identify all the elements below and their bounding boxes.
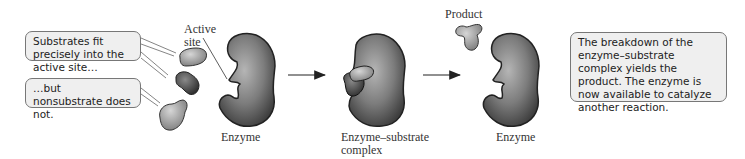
label-active-site-line2: site xyxy=(184,36,216,49)
enzyme-shape-2 xyxy=(483,33,539,126)
callout-nonsubstrate: …but nonsubstrate does not. xyxy=(25,78,141,108)
substrate-molecule xyxy=(180,48,207,66)
label-enzyme: Enzyme xyxy=(221,131,260,144)
enzyme-shape xyxy=(219,33,275,126)
callout-pointers xyxy=(141,38,176,106)
substrate-molecule-2 xyxy=(176,72,199,95)
label-complex: Enzyme–substrate complex xyxy=(341,131,429,157)
label-active-site: Active site xyxy=(184,23,216,49)
label-complex-line2: complex xyxy=(341,144,429,157)
callout-substrates-fit: Substrates fit precisely into the active… xyxy=(25,31,141,61)
enzyme-substrate-complex xyxy=(344,34,405,126)
label-enzyme-2: Enzyme xyxy=(496,131,535,144)
callout-breakdown: The breakdown of the enzyme–substrate co… xyxy=(570,32,727,102)
nonsubstrate-molecule xyxy=(160,100,187,130)
product-molecule xyxy=(456,24,482,50)
label-product: Product xyxy=(445,8,482,21)
